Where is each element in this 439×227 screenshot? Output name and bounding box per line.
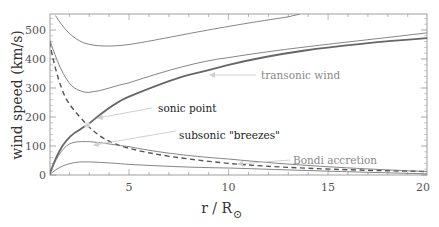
annotation-transonic-wind: transonic wind (261, 69, 340, 81)
arrow-subsonic-breezes (94, 131, 176, 145)
x-tick-labels: 5 10 15 20 (126, 181, 431, 194)
y-tick-300: 300 (25, 82, 46, 95)
y-minor-ticks (50, 18, 427, 169)
y-tick-100: 100 (25, 140, 46, 153)
x-tick-15: 15 (321, 181, 335, 194)
x-ticks (69, 14, 407, 175)
curve-supersonic-upper (55, 14, 300, 46)
x-axis-label-main: r / R (201, 200, 232, 216)
curve-bondi-accretion (49, 42, 427, 172)
sonic-point-marker (84, 122, 90, 128)
x-tick-20: 20 (416, 181, 430, 194)
y-tick-200: 200 (25, 111, 46, 124)
annotation-bondi-accretion: Bondi accretion (293, 154, 377, 166)
y-tick-0: 0 (39, 169, 46, 182)
x-axis-label: r / R ⊙ (201, 200, 242, 221)
y-tick-labels: 0 100 200 300 400 500 (25, 24, 46, 182)
annotation-subsonic-breezes: subsonic "breezes" (179, 129, 280, 141)
plot-frame (50, 14, 427, 175)
x-tick-10: 10 (222, 181, 236, 194)
curves (49, 14, 427, 175)
y-axis-label: wind speed (km/s) (9, 30, 25, 160)
wind-speed-chart: 0 100 200 300 400 500 5 10 15 20 wind sp… (0, 0, 439, 227)
x-axis-label-sun-symbol: ⊙ (233, 208, 242, 221)
y-tick-500: 500 (25, 24, 46, 37)
annotation-sonic-point: sonic point (158, 102, 217, 114)
annotation-arrows (94, 75, 290, 164)
y-tick-400: 400 (25, 53, 46, 66)
x-tick-5: 5 (126, 181, 133, 194)
